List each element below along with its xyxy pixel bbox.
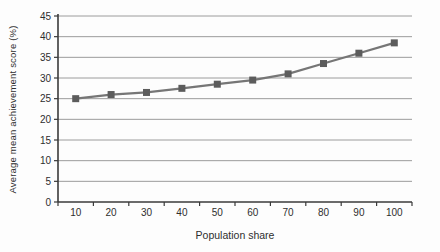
data-point-marker — [178, 85, 185, 92]
data-point-marker — [108, 91, 115, 98]
y-tick-label: 5 — [45, 176, 51, 187]
data-point-marker — [285, 70, 292, 77]
data-line — [76, 43, 395, 99]
x-axis-title: Population share — [135, 228, 335, 242]
x-tick-label: 70 — [283, 207, 295, 218]
y-tick-label: 30 — [40, 73, 52, 84]
chart-canvas: 051015202530354045102030405060708090100 — [0, 0, 440, 252]
x-tick-label: 40 — [176, 207, 188, 218]
data-point-marker — [320, 60, 327, 67]
y-tick-label: 45 — [40, 11, 52, 22]
x-tick-label: 20 — [106, 207, 118, 218]
x-tick-label: 80 — [318, 207, 330, 218]
y-tick-label: 10 — [40, 155, 52, 166]
data-point-marker — [391, 39, 398, 46]
x-tick-label: 60 — [247, 207, 259, 218]
y-tick-label: 35 — [40, 52, 52, 63]
y-tick-label: 20 — [40, 114, 52, 125]
x-tick-label: 10 — [70, 207, 82, 218]
data-point-marker — [355, 50, 362, 57]
x-tick-label: 30 — [141, 207, 153, 218]
x-tick-label: 90 — [353, 207, 365, 218]
y-tick-label: 15 — [40, 135, 52, 146]
y-tick-label: 40 — [40, 31, 52, 42]
data-point-marker — [249, 77, 256, 84]
data-point-marker — [143, 89, 150, 96]
x-tick-label: 100 — [386, 207, 403, 218]
y-axis-title: Average mean achievement score (%) — [6, 10, 19, 210]
x-tick-label: 50 — [212, 207, 224, 218]
y-tick-label: 25 — [40, 93, 52, 104]
y-tick-label: 0 — [45, 197, 51, 208]
data-point-marker — [72, 95, 79, 102]
data-point-marker — [214, 81, 221, 88]
chart: 051015202530354045102030405060708090100 … — [0, 0, 440, 252]
